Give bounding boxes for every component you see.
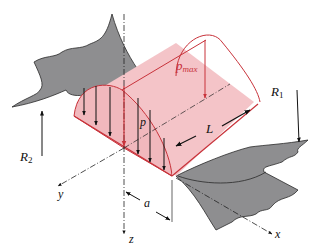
diagram-canvas: pmax p L R1 R2 a x y z — [0, 0, 328, 246]
z-axis-label: z — [128, 232, 134, 246]
a-arrow-right — [156, 212, 170, 220]
R2-label: R2 — [19, 149, 32, 165]
R1-arrow — [297, 90, 299, 142]
p-label: p — [139, 115, 146, 129]
y-axis-line — [58, 148, 124, 186]
contact-diagram: pmax p L R1 R2 a x y z — [0, 0, 328, 246]
L-label: L — [205, 121, 213, 136]
x-axis-label: x — [274, 227, 281, 241]
a-arrow-left — [126, 192, 140, 200]
y-axis-label: y — [57, 187, 64, 201]
R1-label: R1 — [270, 84, 283, 100]
a-label: a — [144, 196, 150, 210]
